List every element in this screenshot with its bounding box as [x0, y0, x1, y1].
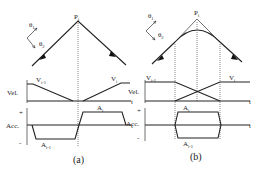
- panel-a: θ1 θ2 Pi t Vel. Vi-1 Vi + - Acc.: [6, 13, 133, 166]
- panel-b: θ1 θ2 Pi t Vel. Vi-1 Vi + - Acc: [126, 9, 251, 163]
- svg-text:θ1: θ1: [148, 12, 154, 21]
- caption-b: (b): [190, 151, 202, 163]
- svg-text:+: +: [137, 107, 141, 115]
- velocity-plot: t Vel. Vi-1 Vi: [128, 74, 251, 106]
- svg-text:-: -: [137, 134, 140, 142]
- svg-text:Ai-1: Ai-1: [183, 140, 193, 149]
- svg-text:t: t: [249, 98, 251, 106]
- svg-text:θ2: θ2: [39, 40, 45, 49]
- svg-text:Vi: Vi: [229, 74, 236, 83]
- motion-profile-diagram: θ1 θ2 Pi t Vel. Vi-1 Vi + - Acc.: [0, 0, 262, 172]
- svg-text:t: t: [249, 122, 251, 130]
- svg-text:+: +: [19, 109, 23, 117]
- svg-text:θ2: θ2: [158, 31, 164, 40]
- svg-text:Vel.: Vel.: [128, 88, 139, 96]
- svg-text:t: t: [131, 98, 133, 106]
- svg-text:Ai: Ai: [97, 104, 104, 113]
- svg-text:Vel.: Vel.: [7, 89, 18, 97]
- svg-text:-: -: [19, 139, 22, 147]
- direction-arrow-icon: [39, 54, 46, 60]
- path-blended-corner: [152, 19, 242, 64]
- point-label: Pi: [194, 9, 200, 18]
- svg-text:Ai: Ai: [183, 104, 190, 113]
- caption-a: (a): [73, 154, 84, 166]
- svg-text:θ1: θ1: [29, 21, 35, 30]
- svg-text:Vi-1: Vi-1: [36, 76, 46, 85]
- acceleration-plot: + - Acc. t Ai-1 Ai: [6, 104, 133, 150]
- svg-text:Acc.: Acc.: [126, 120, 139, 128]
- velocity-plot: t Vel. Vi-1 Vi: [7, 75, 133, 106]
- svg-text:Acc.: Acc.: [6, 122, 19, 130]
- coordinate-frame-icon: θ1 θ2: [146, 12, 164, 40]
- coordinate-frame-icon: θ1 θ2: [27, 21, 45, 49]
- svg-text:Vi: Vi: [111, 75, 118, 84]
- path-sharp-corner: [32, 21, 126, 66]
- acceleration-plot: + - Acc. t Ai Ai-1: [126, 104, 251, 149]
- svg-text:Ai-1: Ai-1: [41, 141, 51, 150]
- svg-text:Vi-1: Vi-1: [146, 74, 156, 83]
- point-label: Pi: [74, 13, 80, 22]
